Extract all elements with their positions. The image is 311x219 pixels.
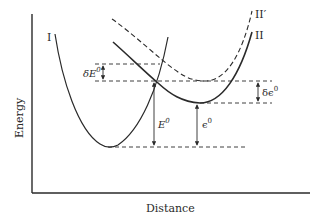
x-axis-label: Distance: [146, 202, 195, 215]
curve-II-prime: [112, 11, 252, 81]
energy-distance-diagram: Energy Distance I II II′ δE0 E0 ϵ0 δϵ0: [0, 0, 311, 219]
curve-II: [113, 32, 252, 103]
curve-I-label: I: [47, 31, 51, 44]
E0-label: E0: [157, 117, 170, 130]
y-axis-label: Energy: [13, 97, 26, 138]
curve-II-prime-label: II′: [255, 8, 267, 21]
curve-II-label: II: [255, 29, 264, 42]
epsilon0-label: ϵ0: [202, 117, 212, 130]
delta-E0-label: δE0: [83, 66, 101, 79]
delta-epsilon0-label: δϵ0: [262, 85, 278, 98]
